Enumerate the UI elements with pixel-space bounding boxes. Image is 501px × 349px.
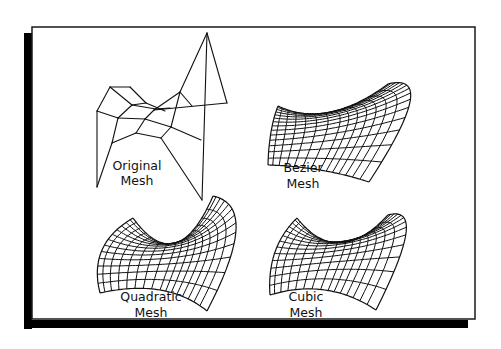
cubic-mesh-label-line1: Cubic bbox=[289, 289, 324, 304]
quadratic-mesh-label-line1: Quadratic bbox=[120, 289, 182, 304]
original-mesh-label-line1: Original bbox=[113, 158, 162, 173]
cubic-mesh-label-line2: Mesh bbox=[290, 305, 323, 320]
figure-frame bbox=[32, 27, 475, 319]
bezier-mesh-label-line2: Mesh bbox=[287, 176, 320, 191]
bezier-mesh-label-line1: Bezier bbox=[283, 160, 323, 175]
figure-canvas: Original Mesh Bezier Mesh Quadratic Mesh… bbox=[0, 0, 501, 349]
quadratic-mesh-label-line2: Mesh bbox=[135, 305, 168, 320]
frame-shadow-bottom bbox=[24, 320, 468, 328]
original-mesh-label-line2: Mesh bbox=[121, 173, 154, 188]
frame-shadow-left bbox=[24, 33, 32, 329]
